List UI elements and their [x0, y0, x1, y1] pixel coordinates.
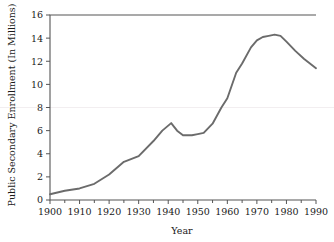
- y-axis-tick-label: 8: [37, 102, 43, 113]
- y-axis-tick-label: 6: [37, 125, 43, 136]
- y-axis-tick-label: 0: [37, 194, 43, 205]
- x-axis-tick-label: 1900: [38, 206, 62, 217]
- y-axis-title: Public Secondary Enrollment (In Millions…: [6, 4, 17, 207]
- x-axis-tick-label: 1950: [186, 206, 210, 217]
- y-axis-tick-label: 12: [31, 56, 43, 67]
- x-axis-tick-label: 1970: [245, 206, 269, 217]
- line-chart: 0246810121416 19001910192019301940195019…: [0, 0, 334, 242]
- x-axis-tick-label: 1960: [215, 206, 239, 217]
- x-axis-title: Year: [170, 225, 193, 236]
- y-axis-tick-label: 2: [37, 171, 43, 182]
- y-axis-tick-label: 10: [31, 79, 43, 90]
- chart-figure: 0246810121416 19001910192019301940195019…: [0, 0, 334, 242]
- x-axis-tick-label: 1940: [156, 206, 180, 217]
- x-axis-tick-label: 1930: [127, 206, 151, 217]
- y-axis-tick-label: 4: [37, 148, 43, 159]
- x-axis-tick-label: 1990: [304, 206, 328, 217]
- x-axis-tick-label: 1980: [274, 206, 298, 217]
- enrollment-series-line: [50, 35, 316, 195]
- y-axis-tick-label: 16: [31, 9, 43, 20]
- x-axis-tick-label: 1920: [97, 206, 121, 217]
- x-axis-tick-label: 1910: [67, 206, 91, 217]
- y-axis-tick-label: 14: [31, 33, 43, 44]
